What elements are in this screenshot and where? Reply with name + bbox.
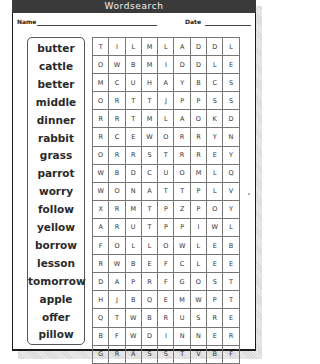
grid-cell[interactable]: N xyxy=(125,182,141,200)
grid-cell[interactable]: W xyxy=(207,218,223,236)
grid-cell[interactable]: E xyxy=(207,255,223,273)
grid-cell[interactable]: R xyxy=(109,146,125,164)
grid-cell[interactable]: T xyxy=(158,182,174,200)
grid-cell[interactable]: K xyxy=(207,110,223,128)
grid-cell[interactable]: M xyxy=(174,291,190,309)
grid-cell[interactable]: E xyxy=(223,255,239,273)
grid-cell[interactable]: H xyxy=(141,74,157,92)
grid-cell[interactable]: U xyxy=(125,218,141,236)
grid-cell[interactable]: W xyxy=(93,182,109,200)
grid-cell[interactable]: P xyxy=(174,218,190,236)
grid-cell[interactable]: R xyxy=(93,255,109,273)
grid-cell[interactable]: L xyxy=(223,218,239,236)
grid-cell[interactable]: S xyxy=(141,146,157,164)
grid-cell[interactable]: C xyxy=(174,255,190,273)
grid-cell[interactable]: Q xyxy=(223,164,239,182)
grid-cell[interactable]: Y xyxy=(223,200,239,218)
grid-cell[interactable]: B xyxy=(109,164,125,182)
grid-cell[interactable]: E xyxy=(158,291,174,309)
grid-cell[interactable]: F xyxy=(223,345,239,363)
grid-cell[interactable]: P xyxy=(190,200,206,218)
grid-cell[interactable]: R xyxy=(174,146,190,164)
grid-cell[interactable]: A xyxy=(174,110,190,128)
grid-cell[interactable]: W xyxy=(125,309,141,327)
grid-cell[interactable]: Q xyxy=(93,309,109,327)
grid-cell[interactable]: D xyxy=(125,164,141,182)
grid-cell[interactable]: V xyxy=(190,345,206,363)
grid-cell[interactable]: R xyxy=(190,128,206,146)
grid-cell[interactable]: W xyxy=(109,56,125,74)
grid-cell[interactable]: A xyxy=(158,74,174,92)
grid-cell[interactable]: W xyxy=(93,164,109,182)
grid-cell[interactable]: C xyxy=(109,128,125,146)
grid-cell[interactable]: R xyxy=(109,200,125,218)
grid-cell[interactable]: R xyxy=(190,146,206,164)
grid-cell[interactable]: C xyxy=(109,74,125,92)
grid-cell[interactable]: T xyxy=(141,200,157,218)
grid-cell[interactable]: D xyxy=(93,273,109,291)
grid-cell[interactable]: V xyxy=(223,182,239,200)
grid-cell[interactable]: Z xyxy=(174,200,190,218)
grid-cell[interactable]: W xyxy=(109,255,125,273)
grid-cell[interactable]: T xyxy=(223,273,239,291)
grid-cell[interactable]: B xyxy=(223,237,239,255)
grid-cell[interactable]: T xyxy=(158,146,174,164)
grid-cell[interactable]: L xyxy=(125,237,141,255)
grid-cell[interactable]: M xyxy=(190,164,206,182)
grid-cell[interactable]: P xyxy=(174,92,190,110)
grid-cell[interactable]: L xyxy=(207,56,223,74)
grid-cell[interactable]: J xyxy=(109,291,125,309)
grid-cell[interactable]: L xyxy=(223,38,239,56)
grid-cell[interactable]: P xyxy=(158,200,174,218)
grid-cell[interactable]: S xyxy=(158,345,174,363)
grid-cell[interactable]: B xyxy=(93,327,109,345)
grid-cell[interactable]: R xyxy=(223,327,239,345)
grid-cell[interactable]: I xyxy=(158,327,174,345)
grid-cell[interactable]: X xyxy=(93,200,109,218)
grid-cell[interactable]: E xyxy=(207,237,223,255)
grid-cell[interactable]: L xyxy=(190,237,206,255)
grid-cell[interactable]: B xyxy=(190,74,206,92)
grid-cell[interactable]: T xyxy=(141,92,157,110)
grid-cell[interactable]: H xyxy=(93,291,109,309)
grid-cell[interactable]: A xyxy=(141,182,157,200)
grid-cell[interactable]: O xyxy=(190,110,206,128)
grid-cell[interactable]: E xyxy=(223,309,239,327)
grid-cell[interactable]: D xyxy=(174,56,190,74)
grid-cell[interactable]: F xyxy=(109,327,125,345)
grid-cell[interactable]: P xyxy=(207,291,223,309)
grid-cell[interactable]: B xyxy=(207,345,223,363)
grid-cell[interactable]: G xyxy=(93,345,109,363)
grid-cell[interactable]: R xyxy=(174,128,190,146)
grid-cell[interactable]: S xyxy=(190,309,206,327)
grid-cell[interactable]: R xyxy=(109,218,125,236)
grid-cell[interactable]: B xyxy=(141,309,157,327)
grid-cell[interactable]: B xyxy=(125,255,141,273)
grid-cell[interactable]: E xyxy=(141,255,157,273)
grid-cell[interactable]: W xyxy=(125,327,141,345)
grid-cell[interactable]: R xyxy=(141,273,157,291)
grid-cell[interactable]: E xyxy=(207,146,223,164)
grid-cell[interactable]: B xyxy=(125,291,141,309)
grid-cell[interactable]: A xyxy=(109,273,125,291)
grid-cell[interactable]: L xyxy=(158,38,174,56)
grid-cell[interactable]: R xyxy=(93,110,109,128)
grid-cell[interactable]: D xyxy=(223,110,239,128)
grid-cell[interactable]: S xyxy=(141,345,157,363)
grid-cell[interactable]: N xyxy=(174,327,190,345)
grid-cell[interactable]: F xyxy=(158,255,174,273)
grid-cell[interactable]: L xyxy=(158,110,174,128)
grid-cell[interactable]: T xyxy=(223,291,239,309)
grid-cell[interactable]: R xyxy=(109,110,125,128)
grid-cell[interactable]: O xyxy=(207,200,223,218)
grid-cell[interactable]: C xyxy=(207,74,223,92)
grid-cell[interactable]: I xyxy=(190,218,206,236)
grid-cell[interactable]: O xyxy=(190,273,206,291)
grid-cell[interactable]: O xyxy=(158,237,174,255)
grid-cell[interactable]: U xyxy=(174,309,190,327)
grid-cell[interactable]: G xyxy=(174,273,190,291)
grid-cell[interactable]: O xyxy=(109,237,125,255)
grid-cell[interactable]: W xyxy=(190,291,206,309)
grid-cell[interactable]: L xyxy=(207,164,223,182)
grid-cell[interactable]: L xyxy=(141,237,157,255)
